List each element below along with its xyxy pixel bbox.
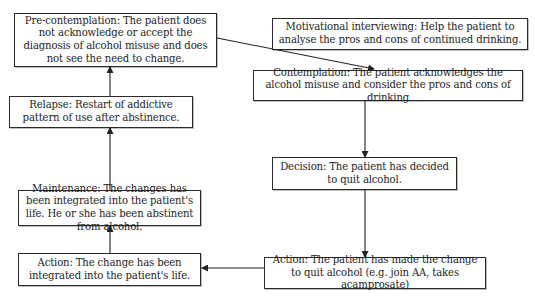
node-contemplation: Contemplation: The patient acknowledges … (253, 70, 523, 101)
node-decision: Decision: The patient has decided to qui… (272, 157, 457, 190)
node-maintenance-text: Maintenance: The changes has been integr… (22, 183, 197, 233)
node-relapse: Relapse: Restart of addictive pattern of… (9, 96, 193, 128)
node-action-quit: Action: The patient has made the change … (264, 257, 486, 289)
node-action-integrated-text: Action: The change has been integrated i… (22, 257, 197, 282)
node-relapse-text: Relapse: Restart of addictive pattern of… (13, 99, 189, 124)
stages-of-change-diagram: Pre-contemplation: The patient does not … (0, 0, 535, 297)
node-motivational-interviewing-text: Motivational interviewing: Help the pati… (276, 21, 524, 46)
node-precontemplation: Pre-contemplation: The patient does not … (14, 13, 217, 67)
node-decision-text: Decision: The patient has decided to qui… (276, 161, 453, 186)
node-contemplation-text: Contemplation: The patient acknowledges … (257, 67, 519, 105)
node-maintenance: Maintenance: The changes has been integr… (18, 190, 201, 226)
node-action-integrated: Action: The change has been integrated i… (18, 253, 201, 286)
node-motivational-interviewing: Motivational interviewing: Help the pati… (272, 18, 528, 50)
node-precontemplation-text: Pre-contemplation: The patient does not … (18, 15, 213, 65)
node-action-quit-text: Action: The patient has made the change … (268, 254, 482, 292)
